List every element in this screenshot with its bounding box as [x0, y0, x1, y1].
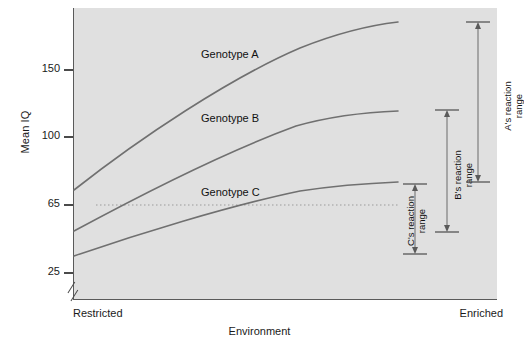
a-reaction-range-line2: range	[513, 94, 524, 118]
curve-label-genotype-b: Genotype B	[201, 112, 259, 124]
c-reaction-range-line1: C's reaction	[405, 196, 416, 246]
a-reaction-range-label: A's reaction range	[502, 21, 524, 191]
y-tick-label-65: 65	[48, 197, 60, 209]
b-reaction-range-label: B's reaction range	[452, 110, 474, 240]
y-tick-label-150: 150	[42, 62, 60, 74]
b-reaction-range-line2: range	[463, 163, 474, 187]
x-tick-label-enriched: Enriched	[460, 307, 503, 319]
y-tick-label-25: 25	[48, 265, 60, 277]
curve-label-genotype-a: Genotype A	[201, 48, 259, 60]
c-reaction-range-label: C's reaction range	[405, 176, 427, 266]
y-tick-mark-65	[64, 204, 73, 205]
x-tick-label-restricted: Restricted	[73, 307, 123, 319]
curve-label-genotype-c: Genotype C	[201, 186, 260, 198]
c-reaction-range-line2: range	[416, 209, 427, 233]
plot-area	[73, 8, 497, 300]
b-reaction-range-line1: B's reaction	[452, 150, 463, 199]
a-reaction-range-line1: A's reaction	[502, 81, 513, 130]
y-axis-title: Mean IQ	[19, 87, 31, 177]
x-axis-title: Environment	[0, 325, 519, 337]
y-tick-label-100: 100	[42, 129, 60, 141]
y-tick-mark-25	[64, 272, 73, 273]
y-tick-mark-100	[64, 136, 73, 137]
y-tick-mark-150	[64, 69, 73, 70]
y-axis-break-icon	[64, 281, 84, 303]
